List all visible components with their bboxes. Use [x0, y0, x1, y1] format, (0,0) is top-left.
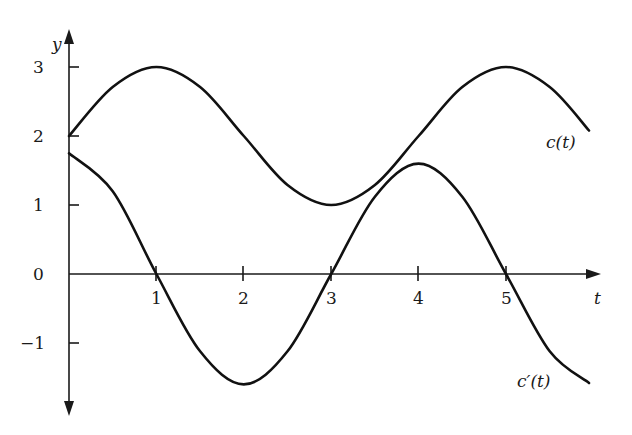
x-tick-label-2: 2 — [238, 288, 249, 308]
curve-c — [69, 67, 589, 205]
curve-c-prime — [69, 153, 589, 384]
y-tick-label-0: 0 — [33, 264, 44, 284]
y-tick-label-minus-1: −1 — [20, 333, 45, 353]
x-axis-right-arrow-icon — [586, 269, 601, 279]
y-tick-label-1: 1 — [33, 195, 44, 215]
x-tick-label-4: 4 — [413, 288, 424, 308]
y-axis — [64, 29, 79, 416]
x-tick-label-1: 1 — [151, 288, 162, 308]
y-tick-label-2: 2 — [33, 126, 44, 146]
y-axis-label: y — [51, 34, 62, 54]
y-tick-label-3: 3 — [33, 57, 44, 77]
x-tick-label-5: 5 — [501, 288, 512, 308]
y-axis-up-arrow-icon — [64, 29, 74, 44]
curve-label-c-prime: c′(t) — [517, 371, 550, 391]
chart: y 3 2 1 0 −1 1 2 3 4 5 t c(t) c′(t) — [0, 0, 632, 435]
x-tick-label-3: 3 — [326, 288, 337, 308]
x-axis-label: t — [594, 288, 601, 308]
curve-label-c: c(t) — [546, 132, 576, 152]
y-axis-down-arrow-icon — [64, 401, 74, 416]
